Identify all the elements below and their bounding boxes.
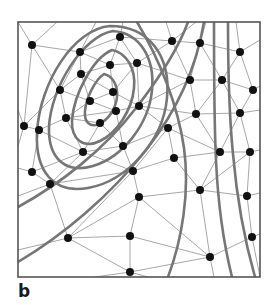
mesh-node xyxy=(76,48,84,56)
mesh-node xyxy=(196,39,204,47)
mesh-node xyxy=(248,233,256,241)
mesh-node xyxy=(56,86,64,94)
mesh-node xyxy=(192,110,200,118)
mesh-node xyxy=(129,167,137,175)
mesh-node xyxy=(28,41,36,49)
mesh-node xyxy=(96,119,104,127)
mesh-node xyxy=(46,180,54,188)
mesh-node xyxy=(135,102,143,110)
mesh-node xyxy=(243,192,251,200)
mesh-node xyxy=(168,37,176,45)
mesh-node xyxy=(236,48,244,56)
mesh-node xyxy=(216,148,224,156)
mesh-node xyxy=(164,124,172,132)
mesh-node xyxy=(79,148,87,156)
figure-background xyxy=(0,0,277,305)
figure-panel-b: b xyxy=(0,0,277,305)
mesh-node xyxy=(126,268,134,276)
panel-label: b xyxy=(18,281,30,301)
mesh-node xyxy=(119,142,127,150)
mesh-node xyxy=(170,154,178,162)
mesh-node xyxy=(218,76,226,84)
mesh-node xyxy=(236,109,244,117)
mesh-contour-figure xyxy=(0,0,277,305)
mesh-node xyxy=(116,33,124,41)
mesh-node xyxy=(106,61,114,69)
mesh-node xyxy=(35,126,43,134)
mesh-node xyxy=(206,253,214,261)
mesh-node xyxy=(133,59,141,67)
mesh-node xyxy=(246,148,254,156)
mesh-node xyxy=(196,186,204,194)
mesh-node xyxy=(109,88,117,96)
mesh-node xyxy=(86,97,94,105)
mesh-node xyxy=(186,76,194,84)
mesh-node xyxy=(28,168,36,176)
mesh-node xyxy=(135,193,143,201)
mesh-node xyxy=(62,114,70,122)
mesh-node xyxy=(249,86,257,94)
mesh-node xyxy=(112,107,120,115)
mesh-node xyxy=(126,232,134,240)
mesh-node xyxy=(20,122,28,130)
mesh-node xyxy=(77,70,85,78)
mesh-node xyxy=(64,234,72,242)
